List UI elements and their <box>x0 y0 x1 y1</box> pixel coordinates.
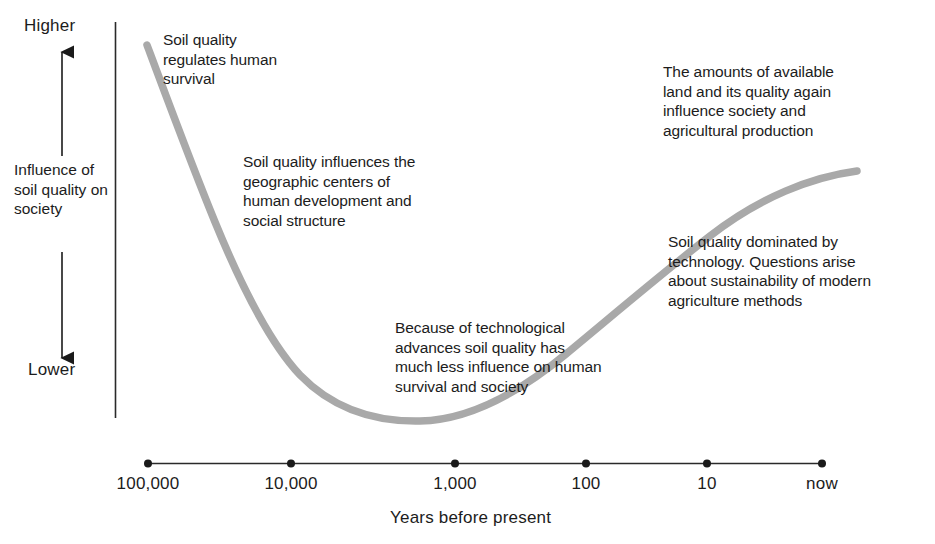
annotation-soil-regulates-survival: Soil quality regulates human survival <box>163 30 343 89</box>
x-tick-label-now: now <box>806 474 838 494</box>
x-tick-dot <box>144 460 152 468</box>
x-tick-label-100000: 100,000 <box>117 474 180 494</box>
y-axis-lower-label: Lower <box>28 360 75 380</box>
annotation-geographic-centers: Soil quality influences the geographic c… <box>243 152 493 230</box>
annotation-technology-dominated: Soil quality dominated by technology. Qu… <box>668 232 935 310</box>
y-axis-title: Influence of soil quality on society <box>14 160 110 219</box>
x-tick-label-1000: 1,000 <box>433 474 477 494</box>
x-tick-label-100: 100 <box>572 474 601 494</box>
x-tick-label-10000: 10,000 <box>264 474 317 494</box>
x-tick-label-10: 10 <box>697 474 716 494</box>
x-axis-title: Years before present <box>390 508 551 528</box>
x-tick-dot <box>703 460 711 468</box>
x-tick-dot <box>818 460 826 468</box>
x-tick-dot <box>582 460 590 468</box>
annotation-available-land: The amounts of available land and its qu… <box>663 62 913 140</box>
annotation-technological-advances: Because of technological advances soil q… <box>395 318 635 396</box>
soil-quality-influence-chart: Higher Lower Influence of soil quality o… <box>0 0 935 544</box>
x-tick-dot <box>287 460 295 468</box>
x-tick-dot <box>451 460 459 468</box>
y-axis-higher-label: Higher <box>24 16 75 36</box>
